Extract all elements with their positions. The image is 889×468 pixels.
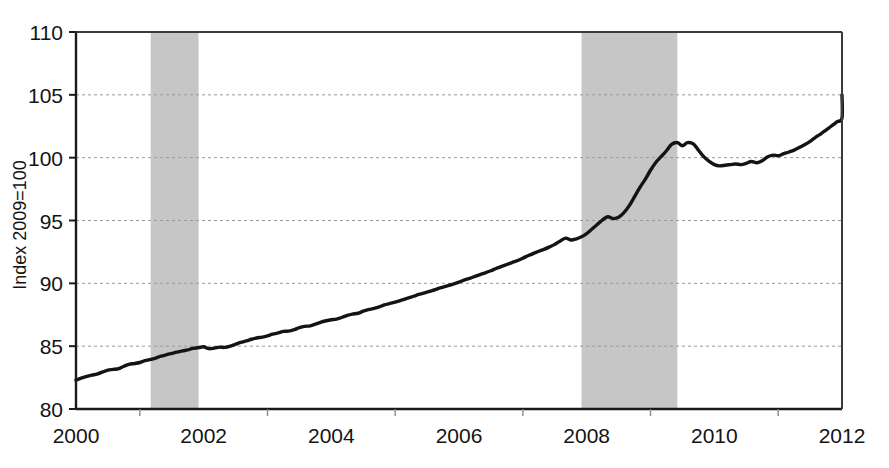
- y-tick-label-90: 90: [40, 272, 63, 295]
- x-tick-label-2002: 2002: [180, 424, 227, 447]
- line-chart: 80859095100105110 2000200220042006200820…: [0, 0, 889, 468]
- y-axis-title: Index 2009=100: [10, 160, 30, 290]
- x-tick-label-2000: 2000: [53, 424, 100, 447]
- x-tick-label-2006: 2006: [436, 424, 483, 447]
- y-tick-labels-group: 80859095100105110: [28, 21, 63, 421]
- y-tick-label-80: 80: [40, 398, 63, 421]
- x-tick-label-2004: 2004: [308, 424, 355, 447]
- x-tick-label-2012: 2012: [819, 424, 866, 447]
- y-tick-label-105: 105: [28, 84, 63, 107]
- chart-figure: 80859095100105110 2000200220042006200820…: [0, 0, 889, 468]
- y-tick-label-95: 95: [40, 210, 63, 233]
- y-tick-label-110: 110: [30, 21, 63, 44]
- x-tick-label-2010: 2010: [691, 424, 738, 447]
- y-tick-label-85: 85: [40, 335, 63, 358]
- y-tick-label-100: 100: [28, 147, 63, 170]
- x-tick-labels-group: 2000200220042006200820102012: [53, 424, 866, 447]
- x-tick-label-2008: 2008: [563, 424, 610, 447]
